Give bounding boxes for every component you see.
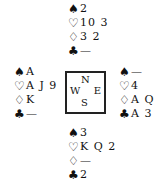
- west-hand: ♠A ♡A J 9 ♢K ♣—: [14, 65, 57, 121]
- north-clubs: ♣—: [68, 44, 109, 58]
- west-spades: ♠A: [14, 65, 57, 79]
- compass-box: N W E S: [65, 71, 106, 114]
- north-hearts: ♡10 3: [68, 16, 109, 30]
- heart-icon: ♡: [14, 79, 26, 93]
- diamond-icon: ♢: [119, 93, 131, 107]
- south-clubs: ♣2: [68, 168, 116, 182]
- diamond-icon: ♢: [14, 93, 26, 107]
- spade-icon: ♠: [14, 65, 26, 79]
- south-hearts: ♡K Q 2: [68, 140, 116, 154]
- compass-east: E: [94, 86, 101, 96]
- spade-icon: ♠: [119, 65, 131, 79]
- south-diamonds: ♢—: [68, 154, 116, 168]
- club-icon: ♣: [14, 107, 26, 121]
- compass-south: S: [81, 98, 88, 108]
- north-spades: ♠2: [68, 2, 109, 16]
- diamond-icon: ♢: [68, 30, 80, 44]
- heart-icon: ♡: [68, 140, 80, 154]
- east-clubs: ♣A 3: [119, 107, 154, 121]
- west-clubs: ♣—: [14, 107, 57, 121]
- east-spades: ♠—: [119, 65, 154, 79]
- spade-icon: ♠: [68, 126, 80, 140]
- compass-north: N: [81, 75, 90, 85]
- club-icon: ♣: [68, 44, 80, 58]
- east-hand: ♠— ♡4 ♢A Q ♣A 3: [119, 65, 154, 121]
- north-hand: ♠2 ♡10 3 ♢3 2 ♣—: [68, 2, 109, 58]
- spade-icon: ♠: [68, 2, 80, 16]
- south-hand: ♠3 ♡K Q 2 ♢— ♣2: [68, 126, 116, 182]
- west-hearts: ♡A J 9: [14, 79, 57, 93]
- heart-icon: ♡: [68, 16, 80, 30]
- east-hearts: ♡4: [119, 79, 154, 93]
- east-diamonds: ♢A Q: [119, 93, 154, 107]
- club-icon: ♣: [119, 107, 131, 121]
- west-diamonds: ♢K: [14, 93, 57, 107]
- heart-icon: ♡: [119, 79, 131, 93]
- club-icon: ♣: [68, 168, 80, 182]
- compass-west: W: [70, 86, 80, 96]
- south-spades: ♠3: [68, 126, 116, 140]
- diamond-icon: ♢: [68, 154, 80, 168]
- north-diamonds: ♢3 2: [68, 30, 109, 44]
